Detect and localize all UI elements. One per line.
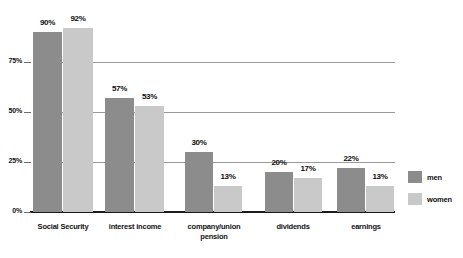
y-tick-75: 75% xyxy=(0,57,22,66)
y-tick-dash-75 xyxy=(24,62,31,63)
bar-value-women-1: 53% xyxy=(135,92,164,101)
bar-men-1 xyxy=(105,98,134,212)
bar-value-men-4: 22% xyxy=(337,154,365,163)
y-tick-25: 25% xyxy=(0,157,22,166)
y-tick-label: 0% xyxy=(12,207,22,214)
plot-area: 0% 25% 50% 75% 90% 92% Social Security 5… xyxy=(0,0,463,258)
bar-chart: 0% 25% 50% 75% 90% 92% Social Security 5… xyxy=(0,0,463,258)
bar-men-4 xyxy=(337,168,365,212)
legend-item-men: men xyxy=(408,170,452,184)
bar-value-women-0: 92% xyxy=(63,14,93,23)
bar-women-3 xyxy=(294,178,322,212)
legend-item-women: women xyxy=(408,192,452,206)
category-label-1: interest income xyxy=(92,222,178,232)
y-tick-50: 50% xyxy=(0,107,22,116)
y-tick-dash-25 xyxy=(24,162,31,163)
legend-label-women: women xyxy=(427,195,452,204)
bar-value-men-1: 57% xyxy=(105,84,134,93)
y-tick-0: 0% xyxy=(0,207,22,216)
bar-women-2 xyxy=(214,186,242,212)
bar-women-0 xyxy=(63,28,93,212)
y-tick-dash-50 xyxy=(24,112,31,113)
bar-men-3 xyxy=(265,172,293,212)
y-tick-dash-0 xyxy=(24,212,31,213)
legend-swatch-women-icon xyxy=(408,193,422,205)
y-tick-label: 25% xyxy=(9,157,22,164)
bar-women-4 xyxy=(366,186,394,212)
chart-legend: men women xyxy=(408,170,452,214)
category-label-3: dividends xyxy=(255,222,331,232)
bar-men-2 xyxy=(185,152,213,212)
category-label-4: earnings xyxy=(328,222,404,232)
bar-men-0 xyxy=(33,32,62,212)
bar-value-men-2: 30% xyxy=(185,138,213,147)
bar-value-women-4: 13% xyxy=(366,172,394,181)
legend-swatch-men-icon xyxy=(408,171,422,183)
bar-women-1 xyxy=(135,106,164,212)
bar-value-men-3: 20% xyxy=(265,158,293,167)
bar-value-women-2: 13% xyxy=(214,172,242,181)
y-tick-label: 50% xyxy=(9,107,22,114)
bar-value-women-3: 17% xyxy=(294,164,322,173)
legend-label-men: men xyxy=(427,173,442,182)
category-label-2: company/union pension xyxy=(178,222,250,242)
y-tick-label: 75% xyxy=(9,57,22,64)
bar-value-men-0: 90% xyxy=(33,18,62,27)
